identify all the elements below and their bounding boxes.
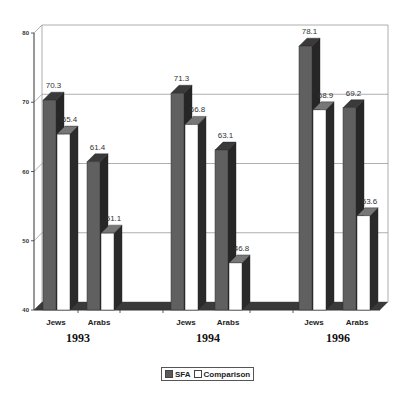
value-label-comparison: 65.4 xyxy=(62,115,78,124)
bar-front xyxy=(43,100,56,310)
legend-swatch-sfa xyxy=(165,370,173,378)
bar-comparison xyxy=(357,208,378,310)
bar-front xyxy=(357,216,370,310)
bar-comparison xyxy=(229,255,250,310)
value-label-sfa: 78.1 xyxy=(302,27,318,36)
value-label-comparison: 53.6 xyxy=(362,197,378,206)
legend-label-comparison: Comparison xyxy=(204,370,251,379)
bar-front xyxy=(101,233,114,310)
gridline-side xyxy=(34,164,42,172)
x-category-label: Jews xyxy=(176,318,196,327)
value-label-sfa: 71.3 xyxy=(174,74,190,83)
y-tick-label: 70 xyxy=(22,99,29,105)
x-category-label: Arabs xyxy=(346,318,369,327)
bar-side xyxy=(370,208,378,310)
bar-chart: 4050607080 70.365.461.451.171.366.863.14… xyxy=(0,0,409,360)
bar-side xyxy=(326,102,334,310)
bar-comparison xyxy=(101,225,122,310)
x-group-label: 1996 xyxy=(326,331,350,345)
x-group-label: 1994 xyxy=(196,331,220,345)
x-category-label: Jews xyxy=(46,318,66,327)
value-label-comparison: 68.9 xyxy=(318,91,334,100)
legend-swatch-comparison xyxy=(194,370,202,378)
legend-label-sfa: SFA xyxy=(175,370,191,379)
bar-comparison xyxy=(313,102,334,310)
y-tick-label: 40 xyxy=(22,307,29,313)
bar-front xyxy=(229,263,242,310)
value-label-comparison: 51.1 xyxy=(106,214,122,223)
legend-item-comparison: Comparison xyxy=(194,370,251,379)
value-label-sfa: 69.2 xyxy=(346,89,362,98)
chart-bars xyxy=(43,38,378,310)
bar-side xyxy=(70,126,78,310)
bar-front xyxy=(171,93,184,310)
bar-front xyxy=(185,124,198,310)
value-label-sfa: 63.1 xyxy=(218,131,234,140)
bar-side xyxy=(198,116,206,310)
bar-side xyxy=(114,225,122,310)
gridline-side xyxy=(34,25,42,33)
bar-front xyxy=(215,150,228,310)
x-category-label: Arabs xyxy=(88,318,111,327)
y-tick-label: 60 xyxy=(22,169,29,175)
bar-comparison xyxy=(185,116,206,310)
gridline-side xyxy=(34,94,42,102)
value-label-comparison: 46.8 xyxy=(234,244,250,253)
y-tick-label: 80 xyxy=(22,30,29,36)
bar-side xyxy=(242,255,250,310)
x-category-label: Arabs xyxy=(217,318,240,327)
bar-front xyxy=(87,162,100,310)
bar-front xyxy=(299,46,312,310)
bar-front xyxy=(343,108,356,310)
bar-comparison xyxy=(57,126,78,310)
legend-item-sfa: SFA xyxy=(165,370,191,379)
bar-front xyxy=(313,110,326,310)
x-category-label: Jews xyxy=(304,318,324,327)
value-label-sfa: 61.4 xyxy=(90,143,106,152)
x-group-label: 1993 xyxy=(66,331,90,345)
y-tick-label: 50 xyxy=(22,238,29,244)
legend: SFA Comparison xyxy=(161,367,254,381)
value-label-comparison: 66.8 xyxy=(190,105,206,114)
gridline-side xyxy=(34,233,42,241)
value-label-sfa: 70.3 xyxy=(46,81,62,90)
bar-front xyxy=(57,134,70,310)
